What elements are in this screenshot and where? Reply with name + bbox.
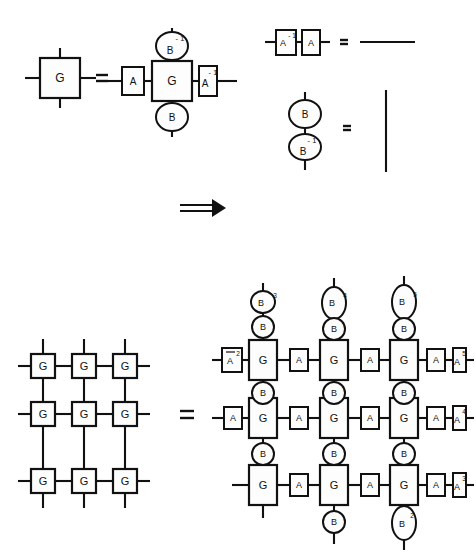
implies-arrow — [180, 199, 226, 217]
g-r1-right-cap-sup: 5 — [462, 350, 466, 357]
rhs-ainv-sup: - 1 — [209, 68, 218, 77]
equals-sign-4 — [180, 411, 194, 418]
rhs-binv-label: B — [167, 45, 174, 56]
g-c3-b-r2-label: B — [401, 449, 407, 459]
g-r2-right-cap-sup: 4 — [462, 408, 466, 415]
g-c2-top-cap-sup: 4 — [343, 292, 347, 299]
grid-cell-r2c1-label: G — [39, 408, 48, 420]
grid-cell-r1c1-label: G — [39, 360, 48, 372]
rhs-ainv-label: A — [202, 78, 209, 89]
equals-sign-3 — [343, 126, 351, 130]
grid-cell-r3c3-label: G — [121, 475, 130, 487]
g-c1-top-cap-sup: 3 — [273, 292, 277, 299]
g-c3-bottom-cap-sup: 2 — [410, 512, 414, 519]
grid-cell-r1c2-label: G — [80, 360, 89, 372]
g-r3-link-a-right-label: A — [433, 480, 439, 490]
g-c3-bottom-cap-label: B — [399, 519, 405, 529]
g-cell-r2c1-label: G — [259, 412, 268, 424]
grid-cell-r2c2-label: G — [80, 408, 89, 420]
g-cell-r1c1-label: G — [259, 354, 268, 366]
g-r1-right-cap-label: A — [454, 357, 460, 367]
a-identity-label: A — [308, 38, 314, 48]
g-r2-right-cap-label: A — [454, 415, 460, 425]
g-c1-b-r1-label: B — [260, 388, 266, 398]
g-c3-b-r1-label: B — [401, 388, 407, 398]
g-c3-b-r0-label: B — [401, 324, 407, 334]
g-cell-r1c2-label: G — [330, 354, 339, 366]
figure-canvas: G A G A - 1 — [0, 0, 476, 556]
rhs-binv-sup: - 1 — [176, 34, 185, 43]
g-cell-r3c3-label: G — [400, 479, 409, 491]
g-cell-r3c2-label: G — [330, 479, 339, 491]
rhs-b-label: B — [169, 112, 176, 123]
g-c2-b-r0-label: B — [331, 324, 337, 334]
g-r2-left-cap-label: A — [230, 413, 236, 423]
g-r1-link-a-23-label: A — [367, 355, 373, 365]
implies-arrow-head — [212, 199, 226, 217]
equals-sign-1 — [96, 75, 108, 81]
g-c3-top-cap-label: B — [399, 297, 405, 307]
g-cell-r2c3-label: G — [400, 412, 409, 424]
lhs-g-node: G — [25, 48, 96, 108]
b-identity-label: B — [302, 109, 309, 120]
g-r2-link-a-right-label: A — [433, 413, 439, 423]
g-c1-top-cap-label: B — [258, 298, 264, 308]
g-r1-left-cap-label: A — [227, 356, 233, 366]
g-c2-b-r1-label: B — [331, 388, 337, 398]
rhs-gauged-g-node: A G A - 1 B - 1 B — [108, 28, 237, 137]
ainv-identity-label: A — [280, 38, 286, 48]
grid-cell-r3c1-label: G — [39, 475, 48, 487]
g-c1-b-r2-label: B — [260, 449, 266, 459]
g-r1-link-a-right-label: A — [433, 355, 439, 365]
g-c2-bottom-cap-label: B — [331, 517, 337, 527]
g-r2-link-a-12-label: A — [296, 413, 302, 423]
g-r3-right-cap-sup: 3 — [462, 475, 466, 482]
panel-single-gate-identity: G A G A - 1 — [25, 28, 237, 137]
g-r3-link-a-12-label: A — [296, 480, 302, 490]
rhs-g-label: G — [167, 74, 176, 88]
g-r1-left-cap-sup: 2 — [236, 350, 240, 357]
grid-cell-r1c3-label: G — [121, 360, 130, 372]
g-cell-r1c3-label: G — [400, 354, 409, 366]
panel-b-inverse-identity: B B - 1 — [289, 90, 386, 172]
g-c2-top-cap-label: B — [329, 298, 335, 308]
g-r3-link-a-23-label: A — [367, 480, 373, 490]
panel-gauged-3x3-grid: A 2 G G G A A A A 5 A G G — [212, 276, 474, 550]
equals-sign-2 — [340, 40, 348, 44]
rhs-a-label: A — [130, 76, 137, 87]
ainv-identity-sup: - 1 — [288, 32, 296, 39]
grid-cell-r3c2-label: G — [80, 475, 89, 487]
panel-plain-3x3-grid: G G G G G G G G G — [18, 339, 150, 508]
binv-identity-sup: - 1 — [308, 136, 317, 145]
g-cell-r3c1-label: G — [259, 479, 268, 491]
grid-cell-r2c3-label: G — [121, 408, 130, 420]
tensor-network-figure: G A G A - 1 — [0, 0, 476, 556]
g-r3-right-cap-label: A — [454, 482, 460, 492]
binv-identity-label: B — [300, 146, 307, 157]
g-c1-b-r0-label: B — [260, 322, 266, 332]
g-r2-link-a-23-label: A — [367, 413, 373, 423]
g-c3-top-cap-sup: 5 — [413, 291, 417, 298]
panel-a-inverse-identity: A - 1 A — [265, 30, 415, 55]
g-r1-link-a-12-label: A — [296, 355, 302, 365]
g-c2-b-r2-label: B — [331, 449, 337, 459]
lhs-g-label: G — [55, 71, 64, 85]
g-cell-r2c2-label: G — [330, 412, 339, 424]
